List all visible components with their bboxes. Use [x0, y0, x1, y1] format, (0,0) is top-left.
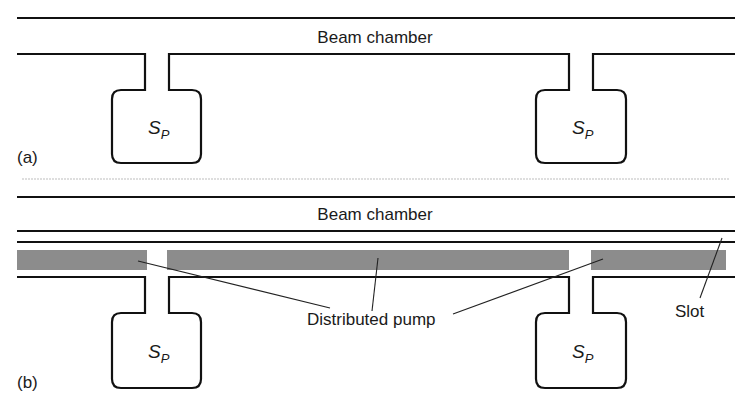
pump-channel-wall-with-ports: [17, 277, 735, 388]
pump-label-right: SP: [572, 117, 594, 142]
distributed-pump-strip-2: [167, 250, 569, 270]
distributed-pump-label: Distributed pump: [307, 310, 436, 329]
pump-label-left: SP: [148, 117, 170, 142]
pump-label-right: SP: [572, 341, 594, 366]
panel-label-b: (b): [17, 373, 38, 392]
beam-chamber-label: Beam chamber: [317, 205, 433, 224]
panel-a: Beam chamber SP SP (a): [17, 18, 735, 167]
distributed-pump-strip-3: [591, 250, 726, 270]
slot-label: Slot: [675, 302, 705, 321]
pump-label-left: SP: [148, 341, 170, 366]
beam-chamber-label: Beam chamber: [317, 28, 433, 47]
chamber-bottom-wall-with-ports: [17, 54, 735, 163]
vacuum-pumping-diagram: Beam chamber SP SP (a) Beam chamber SP S…: [0, 0, 746, 409]
panel-b: Beam chamber SP SP Distributed pump Slot…: [17, 197, 735, 392]
distributed-pump-strip-1: [17, 250, 147, 270]
panel-label-a: (a): [17, 148, 38, 167]
